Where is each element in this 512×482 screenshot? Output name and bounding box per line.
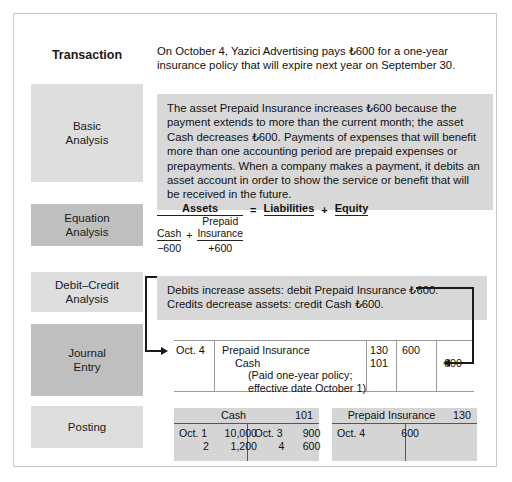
stage-label-transaction: Transaction	[31, 42, 143, 68]
cash-value: −600	[157, 241, 181, 255]
stage-label-basic-analysis-line2: Analysis	[66, 133, 109, 147]
journal-amount-debit: 600	[402, 344, 434, 357]
stage-label-debit-credit-line2: Analysis	[66, 292, 109, 306]
transaction-analysis-figure: Transaction On October 4, Yazici Adverti…	[13, 13, 497, 467]
basic-analysis-body-text: The asset Prepaid Insurance increases ₺6…	[167, 102, 480, 200]
equation-spacer-9	[335, 241, 369, 255]
t-account-cash-credit-side: Oct. 3 900 4 600	[249, 427, 320, 452]
t-account-cash-credit-date-2: 4	[254, 440, 288, 453]
journal-ref-debit: 130	[370, 344, 396, 357]
connector-left-arrowhead-icon	[161, 347, 168, 355]
journal-divider-debit	[396, 341, 397, 391]
basic-analysis-body: The asset Prepaid Insurance increases ₺6…	[157, 94, 493, 210]
t-account-prepaid-title: Prepaid Insurance	[332, 409, 451, 422]
t-account-cash-debit-row-2: 2 1,200	[179, 440, 257, 453]
equals-sign: =	[243, 202, 263, 216]
debit-credit-analysis-body: Debits increase assets: debit Prepaid In…	[157, 276, 487, 320]
assets-header: Assets	[157, 202, 243, 216]
t-account-prepaid-debit-row-1: Oct. 4 600	[337, 427, 419, 440]
stage-label-basic-analysis-line1: Basic	[73, 119, 101, 133]
equation-spacer-1	[243, 216, 263, 241]
t-account-cash-debit-date-2: 2	[179, 440, 213, 453]
debit-credit-line-2: Credits decrease assets: credit Cash ₺60…	[167, 297, 477, 311]
stage-label-transaction-text: Transaction	[52, 48, 122, 62]
connector-right-arrowhead-icon	[443, 359, 450, 367]
transaction-description: On October 4, Yazici Advertising pays ₺6…	[157, 44, 493, 73]
t-account-cash-credit-amount-1: 900	[288, 427, 320, 440]
t-account-cash-credit-row-2: 4 600	[254, 440, 320, 453]
journal-account-debit: Prepaid Insurance	[222, 344, 367, 357]
t-account-cash-header: Cash 101	[174, 408, 319, 424]
equation-spacer-4	[335, 216, 369, 241]
prepaid-insurance-value: +600	[197, 241, 243, 255]
prepaid-insurance-label: Prepaid Insurance	[197, 216, 243, 241]
t-account-prepaid-body: Oct. 4 600	[332, 424, 477, 461]
stage-label-journal-entry-line1: Journal	[68, 346, 106, 360]
plus-sign-inner: +	[181, 216, 197, 241]
journal-divider-ref	[366, 341, 367, 391]
t-account-prepaid-number: 130	[453, 409, 471, 422]
connector-right-bottom-segment	[450, 362, 474, 364]
liabilities-header: Liabilities	[264, 202, 315, 216]
connector-right-top-segment	[416, 287, 474, 289]
t-account-cash-debit-row-1: Oct. 1 10,000	[179, 427, 257, 440]
journal-ref-credit: 101	[370, 357, 396, 370]
stage-label-journal-entry-line2: Entry	[74, 360, 101, 374]
t-account-prepaid-debit-side: Oct. 4 600	[337, 427, 419, 440]
t-account-cash-number: 101	[295, 409, 313, 422]
journal-account-credit: Cash	[222, 357, 367, 370]
stage-label-posting-text: Posting	[68, 420, 106, 434]
stage-label-posting: Posting	[31, 406, 143, 448]
journal-entry-date: Oct. 4	[174, 344, 212, 357]
connector-left-top-segment	[145, 276, 157, 278]
prepaid-insurance-label-line2: Insurance	[197, 228, 243, 240]
t-account-cash: Cash 101 Oct. 1 10,000 2 1,200 Oct. 3 90…	[174, 408, 319, 461]
prepaid-insurance-label-line1: Prepaid	[197, 216, 243, 228]
cash-label: Cash	[157, 216, 181, 241]
journal-entry-table: Oct. 4 Prepaid Insurance Cash (Paid one-…	[174, 340, 474, 392]
stage-label-debit-credit-analysis: Debit–Credit Analysis	[31, 272, 143, 312]
equation-spacer-7	[264, 241, 315, 255]
stage-label-equation-analysis-line2: Analysis	[66, 225, 109, 239]
t-account-cash-body: Oct. 1 10,000 2 1,200 Oct. 3 900 4 600	[174, 424, 319, 461]
t-account-prepaid-debit-amount-1: 600	[377, 427, 419, 440]
journal-divider-date	[214, 341, 215, 391]
journal-entry-accounts: Prepaid Insurance Cash (Paid one-year po…	[222, 344, 367, 394]
equation-spacer-8	[314, 241, 334, 255]
t-account-cash-credit-amount-2: 600	[288, 440, 320, 453]
t-account-cash-debit-side: Oct. 1 10,000 2 1,200	[179, 427, 257, 452]
stage-label-journal-entry: Journal Entry	[31, 324, 143, 396]
equation-spacer-3	[314, 216, 334, 241]
equation-spacer-2	[264, 216, 315, 241]
equation-spacer-6	[243, 241, 263, 255]
accounting-equation-table: Assets = Liabilities + Equity Cash + Pre…	[157, 202, 368, 254]
journal-memo-line-1: (Paid one-year policy;	[222, 369, 367, 382]
stage-label-debit-credit-line1: Debit–Credit	[55, 278, 119, 292]
equity-header: Equity	[335, 202, 369, 216]
t-account-prepaid-debit-date-1: Oct. 4	[337, 427, 377, 440]
connector-right-vertical-segment	[472, 287, 474, 364]
connector-left-vertical-segment	[145, 276, 147, 352]
equation-header-row: Assets = Liabilities + Equity	[157, 202, 368, 216]
equation-account-row: Cash + Prepaid Insurance	[157, 216, 368, 241]
t-account-cash-debit-date-1: Oct. 1	[179, 427, 213, 440]
plus-sign-outer: +	[314, 202, 334, 216]
stage-label-equation-analysis: Equation Analysis	[31, 204, 143, 246]
transaction-description-text: On October 4, Yazici Advertising pays ₺6…	[157, 45, 455, 71]
t-account-cash-title: Cash	[174, 409, 293, 422]
t-account-cash-credit-date-1: Oct. 3	[254, 427, 288, 440]
equation-value-row: −600 +600	[157, 241, 368, 255]
debit-credit-line-1: Debits increase assets: debit Prepaid In…	[167, 283, 477, 297]
t-account-cash-credit-row-1: Oct. 3 900	[254, 427, 320, 440]
journal-ref-numbers: 130 101	[370, 344, 396, 369]
journal-memo-line-2: effective date October 1)	[222, 382, 367, 395]
accounting-equation: Assets = Liabilities + Equity Cash + Pre…	[157, 202, 497, 264]
journal-divider-credit	[436, 341, 437, 391]
equation-spacer-5	[181, 241, 197, 255]
t-account-prepaid-insurance: Prepaid Insurance 130 Oct. 4 600	[332, 408, 477, 461]
stage-label-basic-analysis: Basic Analysis	[31, 84, 143, 182]
stage-label-equation-analysis-line1: Equation	[64, 211, 109, 225]
t-account-prepaid-header: Prepaid Insurance 130	[332, 408, 477, 424]
